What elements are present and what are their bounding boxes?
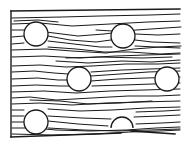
inclusion-top-left <box>24 22 48 46</box>
inclusion-middle-right-clipped <box>155 67 179 91</box>
inclusion-bottom-left <box>24 110 48 134</box>
flow-line <box>56 60 180 63</box>
frame-bottom-border <box>11 133 121 137</box>
flow-line <box>12 95 180 100</box>
flow-line <box>135 34 180 35</box>
flow-line <box>66 57 172 58</box>
inclusion-group <box>24 22 179 134</box>
inclusion-bottom-right <box>111 117 133 128</box>
flow-line <box>12 83 180 86</box>
flow-line <box>12 89 180 93</box>
inclusion-middle-left <box>67 67 91 91</box>
flow-line <box>136 110 180 112</box>
flow-line <box>12 14 180 18</box>
frame-top-border <box>11 9 180 11</box>
inclusion-top-right <box>111 24 135 48</box>
fiber-flow-diagram: Fiber flow lines deflected around circul… <box>0 0 187 147</box>
flow-line <box>12 101 180 105</box>
flow-line <box>96 30 112 31</box>
flow-line <box>12 63 180 67</box>
fiber-flow-figure: Fiber flow lines deflected around circul… <box>0 0 187 147</box>
